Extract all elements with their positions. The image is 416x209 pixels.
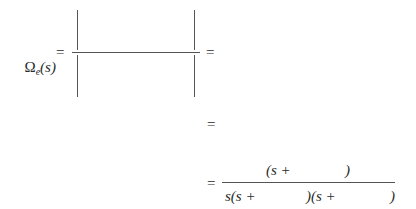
line3-equals-sign: =	[207, 176, 215, 191]
lhs-expression: Ωe(s)	[17, 45, 56, 75]
determinant-right-bar-top	[194, 10, 195, 50]
determinant-left-bar-top	[77, 10, 78, 50]
omega-argument: (s)	[40, 59, 56, 75]
determinant-right-bar-bottom	[194, 55, 195, 97]
line3-denominator-part1: s(s +	[225, 189, 256, 204]
omega-subscript: e	[36, 66, 40, 77]
lhs-equals-sign: =	[56, 45, 64, 60]
determinant-fraction-line	[72, 52, 200, 53]
determinant-trailing-equals: =	[206, 45, 214, 60]
line3-numerator-open: (s +	[266, 163, 291, 178]
line3-fraction-line	[222, 182, 395, 183]
line3-numerator-close: )	[345, 163, 350, 178]
determinant-left-bar-bottom	[77, 55, 78, 97]
omega-symbol: Ω	[25, 59, 36, 75]
line3-denominator-part2: )(s +	[306, 189, 336, 204]
line2-equals-sign: =	[207, 117, 215, 132]
line3-denominator-close: )	[390, 189, 395, 204]
